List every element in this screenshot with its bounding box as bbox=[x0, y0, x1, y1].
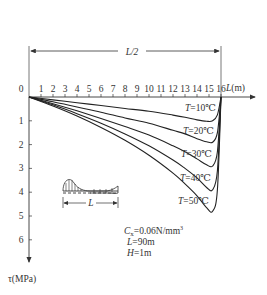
param-l-value: =90m bbox=[132, 237, 155, 247]
y-tick-label: 1 bbox=[19, 116, 24, 126]
y-tick-label: 4 bbox=[19, 187, 24, 197]
x-tick-label: 5 bbox=[87, 84, 92, 94]
chart: L/2 012345678910111213141516 123456 L(m)… bbox=[0, 0, 267, 295]
series-label-3: T=30℃ bbox=[181, 149, 212, 159]
series-label-5: T=50℃ bbox=[178, 196, 209, 206]
param-h-value: =1m bbox=[134, 248, 152, 258]
y-ticks: 123456 bbox=[19, 116, 32, 245]
series-label-value: =20℃ bbox=[188, 126, 214, 136]
y-axis-label: τ(MPa) bbox=[8, 274, 36, 285]
x-axis-label: L(m) bbox=[225, 83, 245, 94]
inset-length-label: L bbox=[87, 198, 93, 208]
y-tick-label: 3 bbox=[19, 163, 24, 173]
x-tick-label: 15 bbox=[204, 84, 214, 94]
y-tick-label: 5 bbox=[19, 211, 24, 221]
x-tick-label: 0 bbox=[19, 84, 24, 94]
x-tick-label: 9 bbox=[135, 84, 140, 94]
param-h: H=1m bbox=[126, 248, 152, 258]
x-tick-label: 14 bbox=[192, 84, 202, 94]
x-tick-label: 11 bbox=[156, 84, 165, 94]
series-label-4: T=40℃ bbox=[180, 173, 211, 183]
param-cx-value: =0.06N/mm bbox=[134, 226, 181, 236]
y-tick-label: 2 bbox=[19, 140, 24, 150]
x-ticks: 012345678910111213141516 bbox=[19, 84, 226, 97]
x-tick-label: 2 bbox=[51, 84, 56, 94]
y-tick-label: 6 bbox=[19, 235, 24, 245]
series-label-value: =10℃ bbox=[190, 103, 216, 113]
x-tick-label: 16 bbox=[216, 84, 226, 94]
x-tick-label: 4 bbox=[75, 84, 80, 94]
series-label-1: T=10℃ bbox=[185, 103, 216, 113]
inset-sketch: L bbox=[63, 180, 118, 208]
x-tick-label: 13 bbox=[180, 84, 190, 94]
half-span-label: L/2 bbox=[125, 47, 139, 57]
x-tick-label: 6 bbox=[99, 84, 104, 94]
series-label-value: =40℃ bbox=[185, 173, 211, 183]
param-cx-superscript: 3 bbox=[180, 225, 183, 231]
x-tick-label: 12 bbox=[168, 84, 178, 94]
x-tick-label: 8 bbox=[123, 84, 128, 94]
series-label-value: =50℃ bbox=[183, 196, 209, 206]
param-l: L=90m bbox=[126, 237, 155, 247]
series-label-2: T=20℃ bbox=[183, 126, 214, 136]
series-label-value: =30℃ bbox=[186, 149, 212, 159]
x-tick-label: 3 bbox=[63, 84, 68, 94]
x-tick-label: 10 bbox=[144, 84, 154, 94]
x-tick-label: 7 bbox=[111, 84, 116, 94]
x-axis-label-unit: (m) bbox=[231, 83, 245, 94]
x-tick-label: 1 bbox=[39, 84, 44, 94]
parameters-block: Cx=0.06N/mm3 L=90m H=1m bbox=[124, 225, 183, 258]
